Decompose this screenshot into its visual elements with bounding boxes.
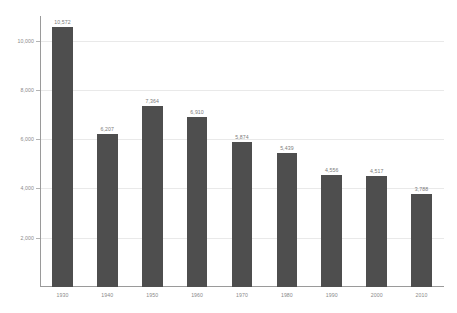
x-axis-tick-label: 1930 <box>56 292 68 298</box>
x-axis-tick-label: 1940 <box>101 292 113 298</box>
y-axis-tick-label: 2,000 <box>4 235 34 241</box>
x-axis-tick-label: 1950 <box>146 292 158 298</box>
plot-area: 2,0004,0006,0008,00010,000 10,5726,2077,… <box>40 16 444 287</box>
y-axis-tick-label: 6,000 <box>4 136 34 142</box>
x-axis-tick-label: 1990 <box>326 292 338 298</box>
x-axis-tick-label: 2000 <box>371 292 383 298</box>
y-axis-tick-label: 10,000 <box>4 38 34 44</box>
x-axis-tick-label: 1960 <box>191 292 203 298</box>
x-axis-tick-label: 2010 <box>416 292 428 298</box>
bar-chart: 2,0004,0006,0008,00010,000 10,5726,2077,… <box>0 0 457 313</box>
x-axis-tick-labels: 193019401950196019701980199020002010 <box>40 16 444 287</box>
x-axis-tick-label: 1980 <box>281 292 293 298</box>
x-axis-tick-label: 1970 <box>236 292 248 298</box>
y-axis-tick-label: 4,000 <box>4 185 34 191</box>
y-axis-tick-label: 8,000 <box>4 87 34 93</box>
